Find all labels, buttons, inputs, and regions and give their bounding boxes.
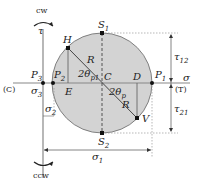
sigma-axis-label: σ [183, 73, 190, 83]
S1-label: S1 [98, 20, 109, 33]
tau21-label: τ21 [174, 104, 188, 117]
tau-axis-label: τ [38, 26, 44, 36]
R-bottom-label: R [122, 100, 130, 110]
P1-label: P1 [155, 70, 166, 83]
point-S2 [100, 131, 104, 135]
tau12-label: τ12 [174, 52, 188, 65]
sigma1-label: σ1 [92, 152, 103, 165]
R-top-label: R [87, 55, 95, 65]
D-label: D [133, 72, 141, 82]
H-label: H [63, 35, 72, 45]
mohrs-circle-diagram: cw τ ccw (C) (T) σ S1 S2 H V C D E R R P… [0, 0, 197, 181]
P2-label: P2 [54, 70, 65, 83]
sigma2-label: σ2 [45, 104, 56, 117]
point-V [135, 116, 139, 120]
P3-label: P3 [31, 70, 42, 83]
point-H [66, 46, 70, 50]
point-P1 [150, 81, 154, 85]
S2-label: S2 [98, 137, 109, 150]
cw-label: cw [36, 7, 47, 15]
angle-bottom-label: 2θp [109, 87, 126, 100]
ccw-label: ccw [33, 172, 49, 180]
compression-label: (C) [3, 86, 15, 94]
C-label: C [104, 72, 112, 82]
V-label: V [142, 114, 149, 124]
angle-top-label: 2θp1 [78, 69, 99, 82]
tension-label: (T) [175, 86, 187, 94]
E-label: E [65, 87, 72, 97]
sigma3-label: σ3 [31, 86, 42, 99]
